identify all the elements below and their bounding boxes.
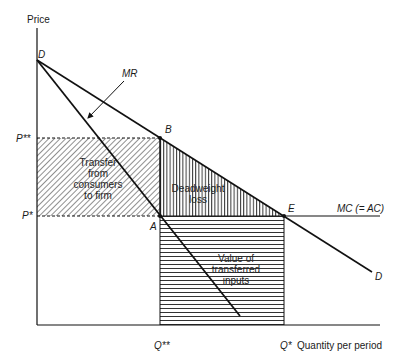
region-text-line: to firm bbox=[84, 190, 112, 201]
region-text-line: loss bbox=[189, 194, 207, 205]
region-text-line: inputs bbox=[223, 275, 250, 286]
q-star-star-label: Q** bbox=[154, 340, 171, 351]
region-text-line: Value of bbox=[218, 253, 254, 264]
monopoly-deadweight-loss-diagram: Price Quantity per period P** P* Q** Q* … bbox=[0, 0, 404, 359]
y-axis-label: Price bbox=[27, 14, 50, 25]
point-b-dot bbox=[158, 136, 162, 140]
mr-label: MR bbox=[122, 68, 138, 79]
region-text-line: Deadweight bbox=[172, 183, 225, 194]
mc-label: MC (= AC) bbox=[337, 203, 384, 214]
region-text-line: transferred bbox=[212, 264, 260, 275]
region-text-line: consumers bbox=[74, 179, 123, 190]
region-text-line: Transfer bbox=[80, 157, 118, 168]
point-e-label: E bbox=[288, 203, 295, 214]
region-text-line: from bbox=[88, 168, 108, 179]
demand-label: D bbox=[375, 271, 382, 282]
point-b-label: B bbox=[165, 124, 172, 135]
point-d-label: D bbox=[38, 49, 45, 60]
q-star-label: Q* bbox=[280, 340, 293, 351]
point-a-label: A bbox=[149, 221, 157, 232]
p-star-star-label: P** bbox=[16, 133, 32, 144]
p-star-label: P* bbox=[22, 210, 34, 221]
point-e-dot bbox=[282, 214, 286, 218]
x-axis-label: Quantity per period bbox=[297, 340, 382, 351]
point-a-dot bbox=[158, 214, 162, 218]
